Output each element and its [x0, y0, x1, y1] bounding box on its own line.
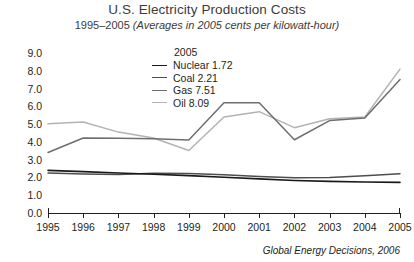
x-tick-label: 2002 [283, 221, 306, 233]
x-axis-tick [83, 213, 84, 218]
y-tick-label: 9.0 [27, 47, 42, 59]
y-axis-labels: 0.01.02.03.04.05.06.07.08.09.0 [10, 53, 42, 213]
x-axis-tick [294, 213, 295, 218]
x-axis-tick [189, 213, 190, 218]
x-axis-tick [330, 213, 331, 218]
x-axis-tick [48, 213, 49, 218]
y-tick-label: 8.0 [27, 65, 42, 77]
x-axis-tick [400, 213, 401, 218]
x-tick-label: 1999 [177, 221, 200, 233]
chart-title: U.S. Electricity Production Costs [0, 2, 414, 17]
y-tick-label: 1.0 [27, 189, 42, 201]
x-axis-tick [259, 213, 260, 218]
y-tick-label: 6.0 [27, 100, 42, 112]
x-tick-label: 2004 [353, 221, 376, 233]
x-tick-label: 1997 [107, 221, 130, 233]
series-line-gas [48, 79, 400, 152]
x-tick-label: 1998 [142, 221, 165, 233]
subtitle-range: 1995–2005 [75, 19, 130, 31]
x-tick-label: 2001 [248, 221, 271, 233]
x-tick-label: 2005 [388, 221, 411, 233]
source-credit: Global Energy Decisions, 2006 [263, 245, 400, 256]
x-tick-label: 1995 [36, 221, 59, 233]
x-axis-tick [224, 213, 225, 218]
x-axis-tick [365, 213, 366, 218]
plot-area [48, 53, 400, 213]
subtitle-note: (Averages in 2005 cents per kilowatt-hou… [133, 19, 339, 31]
y-tick-label: 7.0 [27, 83, 42, 95]
series-lines [48, 53, 400, 213]
x-axis-tick [154, 213, 155, 218]
y-tick-label: 4.0 [27, 136, 42, 148]
x-axis-tick [118, 213, 119, 218]
x-tick-label: 1996 [72, 221, 95, 233]
y-tick-label: 2.0 [27, 171, 42, 183]
x-tick-label: 2000 [212, 221, 235, 233]
x-tick-label: 2003 [318, 221, 341, 233]
y-tick-label: 0.0 [27, 207, 42, 219]
chart-subtitle: 1995–2005 (Averages in 2005 cents per ki… [0, 19, 414, 31]
y-tick-label: 5.0 [27, 118, 42, 130]
chart-container: U.S. Electricity Production Costs 1995–2… [0, 0, 414, 262]
y-tick-label: 3.0 [27, 154, 42, 166]
